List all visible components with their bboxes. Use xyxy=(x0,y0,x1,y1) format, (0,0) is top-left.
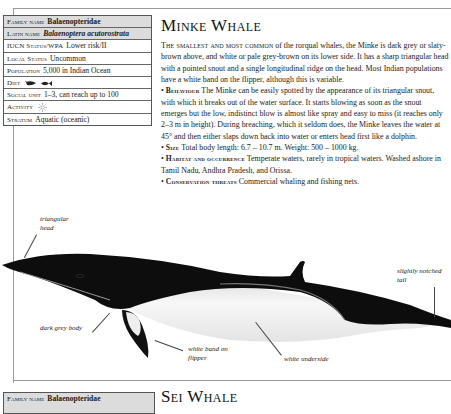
info-row-family: Family nameBalaenopteridae xyxy=(4,16,151,28)
section-heading: Size xyxy=(166,143,180,152)
info-value: Balaenopteridae xyxy=(47,17,100,26)
fish-icon xyxy=(39,80,52,87)
next-species-info-table: Family nameBalaenopteridae xyxy=(3,392,155,414)
info-row-activity: Activity xyxy=(4,101,151,113)
info-label: Diet xyxy=(7,79,20,87)
info-row-local-status: Local StatusUncommon xyxy=(4,53,151,65)
species-description: The smallest and most common of the rorq… xyxy=(161,40,449,187)
species-title: Minke Whale xyxy=(161,16,261,36)
info-row-population: Population5,000 in Indian Ocean xyxy=(4,65,151,77)
leader-line-tail xyxy=(434,287,435,317)
intro-paragraph: The smallest and most common of the rorq… xyxy=(161,40,449,85)
info-label: Social unit xyxy=(7,91,41,99)
info-row-social-unit: Social unit1–3, can reach up to 100 xyxy=(4,89,151,101)
info-row-diet: Diet xyxy=(4,77,151,89)
info-value: Lower risk/II xyxy=(66,41,106,50)
species-info-table: Family nameBalaenopteridae Latin nameBal… xyxy=(3,15,152,126)
info-label: Population xyxy=(7,67,40,75)
info-value: Balaenopteridae xyxy=(47,394,100,403)
section-heading: Habitat and occurrence xyxy=(166,154,245,163)
label-white-band-flipper: white band on flipper xyxy=(188,345,238,363)
section-heading: Conservation threats xyxy=(166,177,237,186)
next-species-title: Sei Whale xyxy=(161,387,237,407)
label-white-underside: white underside xyxy=(284,355,354,364)
section-behaviour: • Behaviour The Minke can be easily spot… xyxy=(161,85,449,142)
intro-lead: The smallest and most common xyxy=(161,41,273,50)
section-text: Commercial whaling and fishing nets. xyxy=(237,177,359,186)
info-label: Family name xyxy=(7,18,44,26)
info-row-stratum: StratumAquatic (oceanic) xyxy=(4,114,151,125)
info-row-latin: Latin nameBalaenoptera acutorostrata xyxy=(4,28,151,40)
info-label: Activity xyxy=(7,103,33,111)
section-conservation: • Conservation threats Commercial whalin… xyxy=(161,176,449,187)
info-label: Family name xyxy=(7,395,44,403)
info-value: Aquatic (oceanic) xyxy=(35,115,89,124)
krill-icon xyxy=(25,80,37,87)
section-text: The Minke can be easily spotted by the a… xyxy=(161,86,443,140)
info-label: IUCN Status/WPA xyxy=(7,42,63,50)
page-frame-top-rule xyxy=(13,8,451,9)
info-label: Latin name xyxy=(7,30,40,38)
label-triangular-head: triangular head xyxy=(40,215,74,233)
section-text: Total body length: 6.7 – 10.7 m. Weight:… xyxy=(179,143,358,152)
info-value: 1–3, can reach up to 100 xyxy=(44,90,119,99)
sun-icon xyxy=(38,103,47,112)
section-heading: Behaviour xyxy=(166,86,200,95)
section-habitat: • Habitat and occurrence Temperate water… xyxy=(161,153,449,176)
info-value: Uncommon xyxy=(50,54,86,63)
info-label: Local Status xyxy=(7,55,47,63)
info-value: 5,000 in Indian Ocean xyxy=(43,66,110,75)
section-size: • Size Total body length: 6.7 – 10.7 m. … xyxy=(161,142,449,153)
label-tail: slightly notched tail xyxy=(397,267,447,285)
section-divider-rule xyxy=(13,380,451,381)
info-label: Stratum xyxy=(7,116,32,124)
info-row-iucn: IUCN Status/WPALower risk/II xyxy=(4,40,151,52)
info-value: Balaenoptera acutorostrata xyxy=(43,29,129,38)
